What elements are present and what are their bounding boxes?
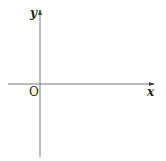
y-axis-label: y — [29, 6, 38, 20]
origin-label: O — [29, 85, 39, 99]
x-axis-label: x — [146, 85, 155, 99]
coordinate-plane: y O x — [0, 0, 166, 161]
